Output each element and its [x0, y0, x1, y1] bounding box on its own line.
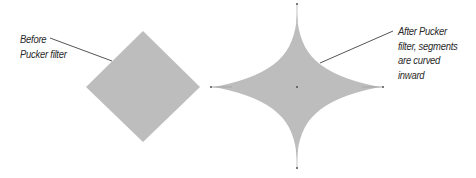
after-label-line-1: After Pucker: [398, 24, 458, 39]
right-anchor-point: [382, 86, 384, 88]
after-label-line-2: filter, segments: [398, 39, 458, 54]
before-label: Before Pucker filter: [20, 32, 67, 61]
after-label: After Pucker filter, segments are curved…: [398, 24, 458, 82]
bottom-anchor-point: [296, 167, 298, 169]
after-label-line-3: are curved: [398, 53, 458, 68]
top-anchor-point: [296, 3, 298, 5]
before-label-line-1: Before: [20, 32, 67, 47]
left-anchor-point: [210, 86, 212, 88]
center-point: [296, 86, 298, 88]
after-leader-line: [320, 31, 393, 63]
after-label-line-4: inward: [398, 68, 458, 83]
before-label-line-2: Pucker filter: [20, 47, 67, 62]
before-diamond-shape: [86, 31, 200, 142]
